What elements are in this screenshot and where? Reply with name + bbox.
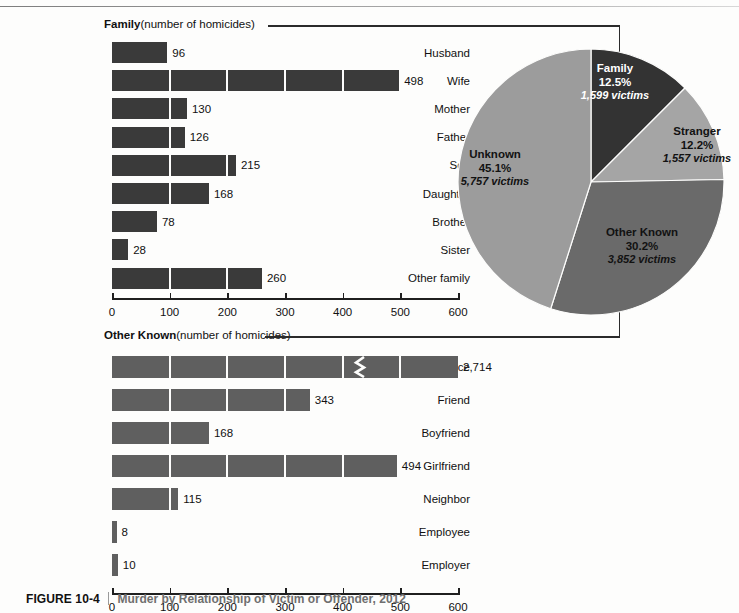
x-axis-tick-label: 200 bbox=[218, 306, 237, 318]
bar-segment-divider bbox=[169, 127, 171, 148]
family-section-units: (number of homicides) bbox=[140, 18, 254, 30]
x-axis-tick bbox=[227, 293, 229, 300]
bar-row: Brother78 bbox=[0, 211, 470, 232]
figure-caption-text: Murder by Relationship of Victim or Offe… bbox=[117, 592, 406, 606]
x-axis-tick bbox=[285, 293, 287, 300]
bar-category-label: Brother bbox=[365, 215, 470, 229]
bar-category-label: Mother bbox=[365, 102, 470, 116]
bar[interactable] bbox=[112, 422, 209, 444]
bar-fill bbox=[112, 211, 157, 232]
pie-label-family: Family 12.5% 1,599 victims bbox=[563, 62, 667, 103]
bar-fill bbox=[112, 554, 118, 576]
bar[interactable] bbox=[112, 42, 167, 63]
family-bar-chart: Husband96Wife498Mother130Father126Son215… bbox=[0, 40, 470, 325]
bar[interactable] bbox=[112, 183, 209, 204]
bar-segment-divider bbox=[399, 356, 401, 378]
bar[interactable] bbox=[112, 70, 399, 91]
bar-row: Son215 bbox=[0, 155, 470, 176]
x-axis-tick bbox=[400, 293, 402, 300]
bar-fill bbox=[112, 521, 117, 543]
bar-segment-divider bbox=[226, 70, 228, 91]
bar-category-label: Employee bbox=[365, 525, 470, 539]
pie-label-stranger-percent: 12.2% bbox=[651, 139, 739, 153]
bar-segment-divider bbox=[284, 356, 286, 378]
bar-row: Friend343 bbox=[0, 389, 470, 411]
bar-row: Mother130 bbox=[0, 98, 470, 119]
bar[interactable] bbox=[112, 389, 310, 411]
axis-break-zigzag-icon bbox=[353, 356, 367, 378]
bar-value-label: 494 bbox=[402, 459, 421, 473]
other-known-connector-line-horizontal bbox=[265, 336, 620, 338]
bar-category-label: Sister bbox=[365, 243, 470, 257]
family-connector-line-horizontal bbox=[268, 25, 620, 27]
bar-fill bbox=[112, 155, 236, 176]
bar-segment-divider bbox=[342, 70, 344, 91]
bar-segment-divider bbox=[226, 268, 228, 289]
x-axis-tick-label: 100 bbox=[160, 306, 179, 318]
other-known-section-title: Other Known bbox=[104, 329, 176, 341]
bar-segment-divider bbox=[226, 155, 228, 176]
bar-fill bbox=[112, 98, 187, 119]
bar[interactable] bbox=[112, 268, 262, 289]
pie-label-other-known-victims: 3,852 victims bbox=[583, 253, 701, 267]
bar-segment-divider bbox=[169, 70, 171, 91]
bar-row: Employee8 bbox=[0, 521, 470, 543]
bar-segment-divider bbox=[169, 455, 171, 477]
bar[interactable] bbox=[112, 521, 117, 543]
bar[interactable] bbox=[112, 554, 118, 576]
bar-fill bbox=[112, 455, 397, 477]
pie-label-unknown-name: Unknown bbox=[443, 148, 547, 162]
bar[interactable] bbox=[112, 155, 236, 176]
bar-segment-divider bbox=[226, 356, 228, 378]
other-known-section-header: Other Known(number of homicides) bbox=[104, 329, 291, 341]
bar-segment-divider bbox=[169, 356, 171, 378]
bar-fill bbox=[112, 183, 209, 204]
bar-value-label: 78 bbox=[162, 215, 175, 229]
other-known-section-units: (number of homicides) bbox=[176, 329, 290, 341]
pie-label-family-name: Family bbox=[563, 62, 667, 76]
x-axis-tick-label: 0 bbox=[109, 306, 115, 318]
bar[interactable] bbox=[112, 356, 458, 378]
bar[interactable] bbox=[112, 488, 178, 510]
bar-segment-divider bbox=[342, 356, 344, 378]
bar[interactable] bbox=[112, 239, 128, 260]
bar[interactable] bbox=[112, 98, 187, 119]
caption-divider bbox=[108, 592, 110, 605]
bar-segment-divider bbox=[169, 268, 171, 289]
bar-row: Employer10 bbox=[0, 554, 470, 576]
pie-label-other-known-percent: 30.2% bbox=[583, 240, 701, 254]
x-axis-tick bbox=[343, 293, 345, 300]
figure-root: Family(number of homicides) Other Known(… bbox=[0, 0, 739, 613]
bar[interactable] bbox=[112, 455, 397, 477]
figure-number: FIGURE 10-4 bbox=[26, 592, 100, 606]
bar-value-label: 10 bbox=[123, 558, 136, 572]
bar-fill bbox=[112, 389, 310, 411]
other-known-bar-chart: Acquaintance2,714Friend343Boyfriend168Gi… bbox=[0, 350, 470, 590]
pie-label-family-victims: 1,599 victims bbox=[563, 89, 667, 103]
bar-fill bbox=[112, 268, 262, 289]
bar-value-label: 28 bbox=[133, 243, 146, 257]
top-divider-rule bbox=[0, 6, 739, 7]
bar[interactable] bbox=[112, 127, 185, 148]
bar-segment-divider bbox=[342, 455, 344, 477]
bar-segment-divider bbox=[284, 70, 286, 91]
bar-row: Neighbor115 bbox=[0, 488, 470, 510]
bar-row: Sister28 bbox=[0, 239, 470, 260]
pie-label-stranger: Stranger 12.2% 1,557 victims bbox=[651, 125, 739, 166]
bar-segment-divider bbox=[169, 422, 171, 444]
bar-value-label: 130 bbox=[192, 102, 211, 116]
bar-value-label: 2,714 bbox=[463, 360, 492, 374]
bar-category-label: Employer bbox=[365, 558, 470, 572]
pie-label-family-percent: 12.5% bbox=[563, 76, 667, 90]
family-section-title: Family bbox=[104, 18, 140, 30]
bar-value-label: 168 bbox=[214, 187, 233, 201]
pie-label-other-known: Other Known 30.2% 3,852 victims bbox=[583, 226, 701, 267]
pie-label-unknown: Unknown 45.1% 5,757 victims bbox=[443, 148, 547, 189]
pie-label-other-known-name: Other Known bbox=[583, 226, 701, 240]
bar-row: Wife498 bbox=[0, 70, 470, 91]
bar[interactable] bbox=[112, 211, 157, 232]
bar-row: Father126 bbox=[0, 127, 470, 148]
x-axis-tick bbox=[170, 293, 172, 300]
bar-segment-divider bbox=[169, 183, 171, 204]
bar-row: Boyfriend168 bbox=[0, 422, 470, 444]
